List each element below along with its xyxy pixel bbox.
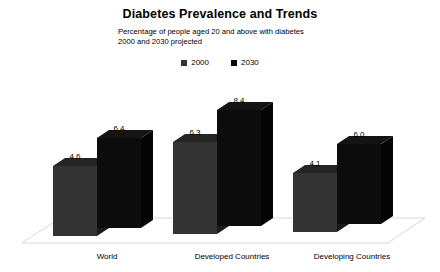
- bar-developed-2030[interactable]: [217, 102, 273, 226]
- value-label-world-2000: 4.6: [51, 152, 99, 161]
- bar-developed-2000-front: [173, 142, 217, 234]
- category-label-world: World: [57, 252, 157, 261]
- bar-developing-2000-front: [293, 173, 337, 232]
- bar-world-2030-side: [141, 130, 153, 228]
- bar-world-2030[interactable]: [97, 130, 153, 228]
- bar-world-2030-front: [97, 138, 141, 228]
- value-label-developed-2030: 8.4: [215, 96, 263, 105]
- bar-developing-2030-side: [381, 136, 393, 224]
- bar-developing-2030[interactable]: [337, 136, 393, 224]
- bar-world-2000-front: [53, 166, 97, 236]
- category-label-developing: Developing Countries: [287, 252, 417, 261]
- value-label-developing-2000: 4.1: [291, 159, 339, 168]
- bar-developed-2030-side: [261, 102, 273, 226]
- chart-container: Diabetes Prevalence and Trends Percentag…: [0, 0, 440, 272]
- bar-developing-2030-front: [337, 144, 381, 224]
- category-label-developed: Developed Countries: [167, 252, 297, 261]
- value-label-developed-2000: 6.3: [171, 128, 219, 137]
- bar-developed-2030-front: [217, 110, 261, 226]
- value-label-developing-2030: 6.0: [335, 130, 383, 139]
- value-label-world-2030: 6.4: [95, 124, 143, 133]
